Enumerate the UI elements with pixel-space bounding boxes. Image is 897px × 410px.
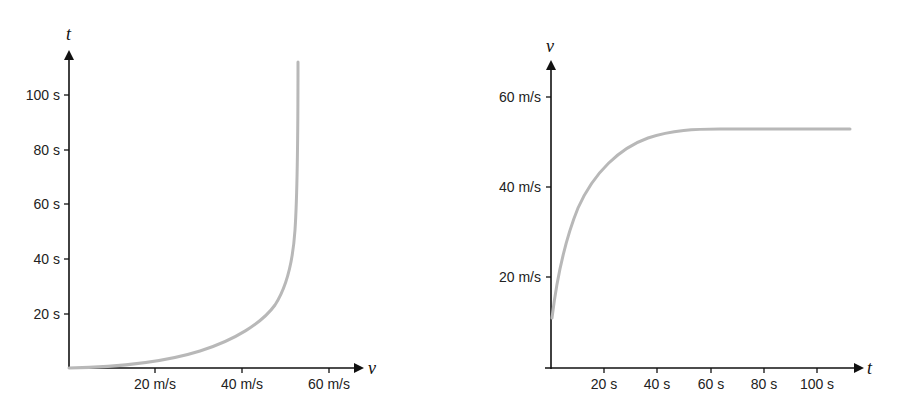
right-chart: v t 20 m/s 40 m/s 60 m/s 20 s 40 s 60 s … [499, 36, 873, 392]
right-x-tick-label: 40 s [644, 376, 670, 392]
left-y-ticks: 20 s 40 s 60 s 80 s 100 s [26, 87, 69, 322]
right-curve [552, 129, 850, 318]
left-y-axis-label: t [66, 24, 72, 44]
figure: t v 20 s 40 s 60 s 80 s 100 s 20 m/s 40 … [0, 0, 897, 410]
left-x-tick-label: 40 m/s [221, 376, 263, 392]
right-x-tick-label: 100 s [800, 376, 834, 392]
left-y-tick-label: 60 s [34, 196, 60, 212]
right-x-tick-label: 60 s [698, 376, 724, 392]
left-y-tick-label: 40 s [34, 251, 60, 267]
right-x-tick-label: 20 s [591, 376, 617, 392]
left-curve [69, 62, 298, 368]
right-x-axis-label: t [867, 358, 873, 378]
left-x-ticks: 20 m/s 40 m/s 60 m/s [134, 368, 350, 392]
right-x-tick-label: 80 s [751, 376, 777, 392]
left-x-tick-label: 60 m/s [308, 376, 350, 392]
right-y-tick-label: 40 m/s [499, 179, 541, 195]
left-x-tick-label: 20 m/s [134, 376, 176, 392]
left-y-tick-label: 80 s [34, 142, 60, 158]
left-y-tick-label: 100 s [26, 87, 60, 103]
left-chart: t v 20 s 40 s 60 s 80 s 100 s 20 m/s 40 … [26, 24, 376, 392]
left-x-axis-label: v [368, 358, 376, 378]
left-y-tick-label: 20 s [34, 306, 60, 322]
right-y-tick-label: 20 m/s [499, 269, 541, 285]
right-x-ticks: 20 s 40 s 60 s 80 s 100 s [591, 368, 834, 392]
right-y-axis-label: v [546, 36, 554, 56]
right-y-tick-label: 60 m/s [499, 89, 541, 105]
right-y-ticks: 20 m/s 40 m/s 60 m/s [499, 89, 551, 285]
